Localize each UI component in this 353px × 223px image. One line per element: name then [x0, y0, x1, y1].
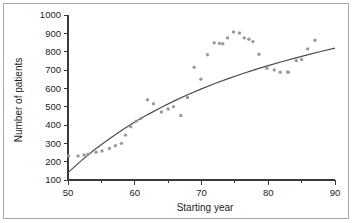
data-point: [166, 107, 169, 110]
y-tick-labels: 1002003004005006007008009001000: [40, 9, 61, 185]
y-tick-label: 100: [45, 174, 61, 185]
data-point: [179, 114, 182, 117]
x-axis-title: Starting year: [177, 202, 234, 213]
data-point: [76, 154, 79, 157]
fitted-curve-path: [68, 48, 335, 172]
data-point: [160, 110, 163, 113]
data-point: [172, 105, 175, 108]
x-tick-label: 50: [63, 187, 74, 198]
x-tick-label: 70: [196, 187, 207, 198]
data-point: [199, 77, 202, 80]
data-point: [67, 154, 70, 157]
data-point: [206, 53, 209, 56]
data-point: [287, 71, 290, 74]
y-tick-label: 300: [45, 138, 61, 149]
data-point: [218, 42, 221, 45]
y-tick-label: 900: [45, 28, 61, 39]
data-point: [279, 71, 282, 74]
y-tick-label: 700: [45, 64, 61, 75]
data-point: [238, 31, 241, 34]
x-tick-label: 90: [330, 187, 341, 198]
data-point: [139, 117, 142, 120]
x-tick-label: 80: [263, 187, 274, 198]
data-point: [146, 98, 149, 101]
data-point: [221, 42, 224, 45]
y-tick-label: 500: [45, 101, 61, 112]
data-point: [226, 36, 229, 39]
data-point: [108, 147, 111, 150]
tick-marks: [64, 15, 335, 185]
data-point: [313, 39, 316, 42]
axes: [68, 15, 335, 180]
data-point: [212, 41, 215, 44]
data-point: [100, 149, 103, 152]
data-point: [273, 68, 276, 71]
data-point: [192, 66, 195, 69]
data-point: [114, 144, 117, 147]
y-axis-title: Number of patients: [13, 58, 24, 143]
data-point: [251, 40, 254, 43]
data-point: [94, 150, 97, 153]
data-point: [295, 59, 298, 62]
data-point: [129, 125, 132, 128]
data-point: [86, 152, 89, 155]
data-point: [300, 58, 303, 61]
y-tick-label: 800: [45, 46, 61, 57]
x-tick-labels: 5060708090: [63, 187, 341, 198]
fitted-curve: [68, 48, 335, 172]
y-tick-label: 200: [45, 156, 61, 167]
data-point: [265, 66, 268, 69]
x-tick-label: 60: [129, 187, 140, 198]
y-tick-label: 600: [45, 83, 61, 94]
data-point: [186, 96, 189, 99]
data-point: [247, 38, 250, 41]
scatter-chart: 1002003004005006007008009001000 50607080…: [0, 0, 353, 223]
data-point: [243, 36, 246, 39]
data-point: [134, 119, 137, 122]
data-point: [124, 133, 127, 136]
y-tick-label: 1000: [40, 9, 61, 20]
data-point: [232, 30, 235, 33]
figure-container: 1002003004005006007008009001000 50607080…: [0, 0, 353, 223]
y-tick-label: 400: [45, 119, 61, 130]
data-point: [82, 153, 85, 156]
data-point: [257, 53, 260, 56]
data-point: [306, 47, 309, 50]
data-point: [152, 102, 155, 105]
data-point: [120, 142, 123, 145]
data-points: [67, 30, 317, 157]
